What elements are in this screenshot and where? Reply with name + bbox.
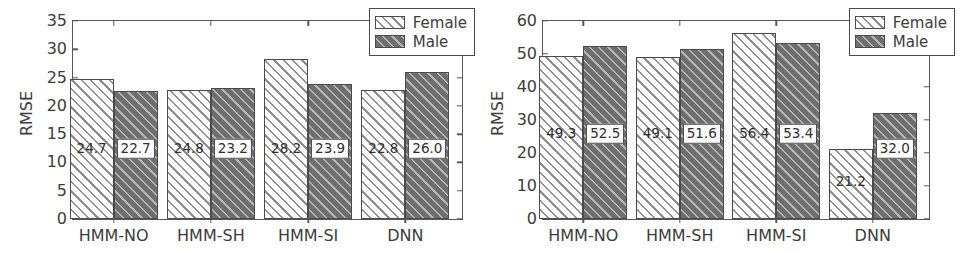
y-tick-label: 0 xyxy=(527,211,537,227)
legend: FemaleMale xyxy=(849,8,955,56)
bar-value-label: 49.1 xyxy=(639,124,677,144)
bar-female-hmm-si: 56.4 xyxy=(732,33,776,219)
x-tick-mark xyxy=(679,218,680,223)
y-tick-label: 30 xyxy=(517,112,537,128)
bar-value-label: 56.4 xyxy=(735,124,773,144)
bar-value-label: 49.3 xyxy=(542,124,580,144)
bar-value-label: 24.8 xyxy=(170,139,208,159)
legend-swatch-female-icon xyxy=(375,16,405,29)
x-tick-mark-top xyxy=(679,21,680,26)
legend-label: Female xyxy=(413,14,467,32)
legend-swatch-male-icon xyxy=(855,35,885,48)
y-tick-label: 5 xyxy=(57,183,67,199)
x-tick-mark-top xyxy=(210,21,211,26)
x-tick-mark-top xyxy=(776,21,777,26)
y-tick-mark-right xyxy=(924,152,929,153)
x-tick-mark-top xyxy=(307,21,308,26)
y-tick-mark-right xyxy=(457,190,462,191)
bar-male-hmm-no: 22.7 xyxy=(114,91,158,219)
y-tick-label: 40 xyxy=(517,79,537,95)
legend-swatch-female-icon xyxy=(855,16,885,29)
y-tick-label: 60 xyxy=(517,13,537,29)
y-axis-title-right: RMSE xyxy=(488,91,507,136)
x-tick-mark xyxy=(307,218,308,223)
y-tick-label: 10 xyxy=(47,154,67,170)
x-tick-label-hmm-si: HMM-SI xyxy=(278,226,338,245)
bar-female-hmm-sh: 49.1 xyxy=(636,57,680,219)
chart-panel-left: RMSE 0510152025303524.722.7HMM-NO24.823.… xyxy=(0,0,483,253)
x-tick-label-hmm-si: HMM-SI xyxy=(746,226,806,245)
y-tick-mark xyxy=(543,20,548,21)
y-tick-mark-right xyxy=(457,162,462,163)
y-tick-mark xyxy=(73,77,78,78)
x-tick-label-dnn: DNN xyxy=(387,226,423,245)
y-tick-mark xyxy=(73,20,78,21)
bar-male-hmm-si: 23.9 xyxy=(308,84,352,219)
x-tick-label-dnn: DNN xyxy=(855,226,891,245)
y-tick-label: 35 xyxy=(47,13,67,29)
bar-female-hmm-no: 49.3 xyxy=(539,56,583,219)
y-tick-label: 20 xyxy=(47,98,67,114)
x-tick-label-hmm-sh: HMM-SH xyxy=(646,226,714,245)
legend-label: Female xyxy=(893,14,947,32)
x-tick-mark xyxy=(776,218,777,223)
y-tick-label: 30 xyxy=(47,41,67,57)
bar-value-label: 51.6 xyxy=(683,124,721,144)
bar-value-label: 23.9 xyxy=(311,139,349,159)
y-tick-label: 20 xyxy=(517,145,537,161)
legend-item-male: Male xyxy=(375,32,467,51)
legend: FemaleMale xyxy=(369,8,475,56)
bar-value-label: 23.2 xyxy=(214,139,252,159)
x-tick-mark xyxy=(210,218,211,223)
y-tick-label: 25 xyxy=(47,70,67,86)
bar-value-label: 26.0 xyxy=(408,139,446,159)
bar-male-hmm-no: 52.5 xyxy=(583,46,627,219)
bar-value-label: 24.7 xyxy=(73,139,111,159)
x-tick-mark-top xyxy=(113,21,114,26)
legend-item-female: Female xyxy=(375,13,467,32)
x-tick-mark xyxy=(872,218,873,223)
x-tick-mark xyxy=(583,218,584,223)
legend-label: Male xyxy=(413,33,449,51)
x-tick-mark-top xyxy=(583,21,584,26)
chart-panel-right: RMSE 010203040506049.352.5HMM-NO49.151.6… xyxy=(483,0,965,253)
bar-value-label: 28.2 xyxy=(267,139,305,159)
bar-female-dnn: 21.2 xyxy=(829,149,873,219)
bar-value-label: 32.0 xyxy=(876,139,914,159)
legend-item-female: Female xyxy=(855,13,947,32)
bar-female-hmm-sh: 24.8 xyxy=(167,90,211,219)
y-tick-label: 15 xyxy=(47,126,67,142)
y-tick-mark-right xyxy=(924,218,929,219)
bar-female-hmm-si: 28.2 xyxy=(264,59,308,219)
legend-swatch-male-icon xyxy=(375,35,405,48)
y-tick-mark-right xyxy=(924,119,929,120)
bar-value-label: 21.2 xyxy=(832,172,870,192)
bar-value-label: 22.7 xyxy=(117,139,155,159)
y-tick-mark xyxy=(543,53,548,54)
y-tick-mark-right xyxy=(457,77,462,78)
y-tick-mark-right xyxy=(924,185,929,186)
y-tick-label: 0 xyxy=(57,211,67,227)
legend-item-male: Male xyxy=(855,32,947,51)
bar-male-dnn: 32.0 xyxy=(873,113,917,219)
bar-male-dnn: 26.0 xyxy=(405,72,449,219)
y-tick-label: 50 xyxy=(517,46,537,62)
legend-label: Male xyxy=(893,33,929,51)
bar-female-hmm-no: 24.7 xyxy=(70,79,114,219)
y-tick-mark-right xyxy=(457,133,462,134)
figure-two-bar-charts: RMSE 0510152025303524.722.7HMM-NO24.823.… xyxy=(0,0,965,253)
bar-value-label: 52.5 xyxy=(586,124,624,144)
y-tick-mark-right xyxy=(924,86,929,87)
bar-female-dnn: 22.8 xyxy=(361,90,405,219)
x-tick-label-hmm-sh: HMM-SH xyxy=(177,226,245,245)
bar-value-label: 22.8 xyxy=(364,139,402,159)
y-tick-mark-right xyxy=(457,105,462,106)
y-tick-mark-right xyxy=(457,218,462,219)
bar-male-hmm-si: 53.4 xyxy=(776,43,820,219)
x-tick-label-hmm-no: HMM-NO xyxy=(548,226,618,245)
y-tick-mark xyxy=(73,49,78,50)
y-tick-label: 10 xyxy=(517,178,537,194)
x-tick-label-hmm-no: HMM-NO xyxy=(79,226,149,245)
x-tick-mark xyxy=(405,218,406,223)
bar-value-label: 53.4 xyxy=(779,124,817,144)
